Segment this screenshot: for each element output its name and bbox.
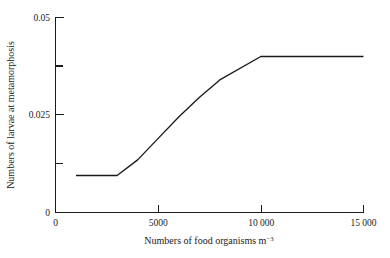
y-tick-label-0: 0	[45, 208, 50, 218]
x-tick-label-15000: 15 000	[350, 218, 376, 228]
x-axis-title-superscript: −3	[266, 235, 274, 242]
data-series-line	[76, 57, 363, 176]
x-tick-label-0: 0	[53, 218, 58, 228]
y-tick-label-0.05: 0.05	[33, 13, 50, 23]
x-tick-label-10000: 10 000	[248, 218, 274, 228]
y-tick-label-0.025: 0.025	[29, 110, 51, 120]
chart-figure: 0.05 0.025 0 0 5000 10 000 15 000 Number…	[0, 0, 390, 258]
y-axis-title: Numbers of larvae at metamorphosis	[5, 41, 16, 189]
line-chart-canvas: 0.05 0.025 0 0 5000 10 000 15 000 Number…	[0, 0, 390, 258]
x-axis-title-text: Numbers of food organisms m	[144, 235, 266, 246]
x-tick-label-5000: 5000	[149, 218, 168, 228]
x-axis-title: Numbers of food organisms m−3	[144, 235, 274, 247]
